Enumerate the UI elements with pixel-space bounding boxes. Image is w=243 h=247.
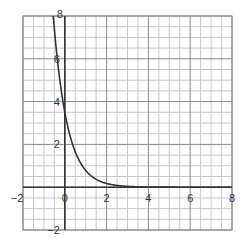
y-tick-label: 8 — [57, 8, 63, 20]
y-tick-label: −2 — [47, 224, 60, 236]
x-tick-label: 8 — [229, 192, 235, 204]
y-tick-label: 6 — [54, 53, 60, 65]
y-tick-label: 4 — [54, 96, 60, 108]
x-tick-label: −2 — [11, 192, 24, 204]
x-tick-label: 2 — [104, 192, 110, 204]
x-tick-label: 0 — [62, 192, 68, 204]
y-tick-label: 2 — [54, 138, 60, 150]
x-tick-label: 6 — [187, 192, 193, 204]
exponential-decay-chart: −202468 −22468 — [0, 0, 243, 247]
grid-minor-lines — [23, 16, 232, 230]
x-tick-label: 4 — [145, 192, 151, 204]
